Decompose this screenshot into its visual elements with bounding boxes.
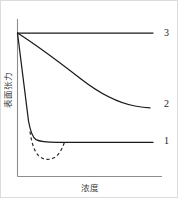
curve-2-path	[18, 33, 151, 108]
curve-1-path	[18, 33, 154, 142]
y-axis-title: 表面张力	[1, 62, 13, 118]
curve-label-1: 1	[164, 136, 169, 146]
surface-tension-concentration-chart: 3 2 1 表面张力 浓度	[0, 0, 178, 198]
curve-label-2: 2	[164, 99, 169, 109]
curve-label-3: 3	[164, 28, 169, 38]
chart-canvas	[1, 1, 178, 198]
curve-1-dashed-minimum-path	[30, 132, 64, 160]
x-axis-title: 浓度	[1, 181, 178, 193]
